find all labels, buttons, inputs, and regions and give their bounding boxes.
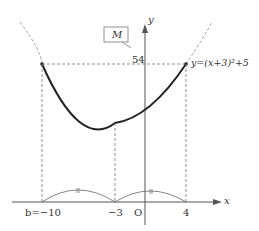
- arc-left: [42, 190, 115, 202]
- max-label: M: [112, 30, 122, 40]
- parabola-curve: [42, 64, 186, 129]
- callout-pointer: [122, 42, 131, 48]
- x-tick-left: b=−10: [25, 208, 61, 218]
- arc-right: [115, 191, 186, 202]
- parabola-diagram: [0, 0, 259, 231]
- y-value-label: 54: [132, 55, 145, 65]
- y-axis-label: y: [148, 15, 154, 25]
- function-label: y=(x+3)²+5: [191, 58, 249, 68]
- parabola-dashed-left: [20, 22, 42, 64]
- x-tick-right: 4: [183, 208, 189, 218]
- x-axis-label: x: [224, 196, 230, 206]
- y-axis-arrow-icon: [142, 24, 148, 33]
- x-tick-vertex: −3: [108, 208, 123, 218]
- origin-label: O: [134, 208, 142, 218]
- x-axis-arrow-icon: [213, 199, 222, 205]
